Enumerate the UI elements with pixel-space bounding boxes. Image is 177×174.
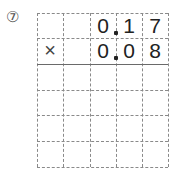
digit-cell: [63, 38, 89, 63]
grid-line: [37, 167, 168, 168]
digit-cell: 1: [116, 13, 142, 38]
digit-cell: 0: [90, 13, 116, 38]
decimal-point: [114, 56, 118, 60]
digit-cell: [63, 13, 89, 38]
problem-number: ⑦: [6, 8, 19, 26]
grid-line: [37, 115, 168, 116]
digit-cell: [37, 13, 63, 38]
answer-line: [37, 64, 168, 65]
grid-line: [168, 13, 169, 167]
digit-cell: 8: [142, 38, 168, 63]
grid-line: [37, 141, 168, 142]
times-sign: ×: [37, 38, 63, 63]
decimal-point: [114, 31, 118, 35]
digit-cell: 7: [142, 13, 168, 38]
multiplication-grid: 0 1 7 × 0 0 8: [37, 13, 168, 167]
digit-cell: 0: [90, 38, 116, 63]
grid-line: [37, 90, 168, 91]
digit-cell: 0: [116, 38, 142, 63]
